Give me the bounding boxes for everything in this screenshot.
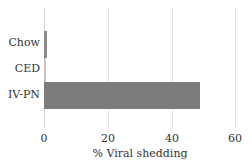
- gridline-20: [108, 8, 109, 128]
- gridline-60: [235, 8, 236, 128]
- bar-ced: [44, 58, 46, 82]
- bar-iv-pn: [44, 82, 200, 109]
- x-tick-40: 40: [165, 132, 179, 145]
- category-label-iv-pn: IV-PN: [8, 88, 40, 101]
- x-tick-60: 60: [228, 132, 242, 145]
- category-label-chow: Chow: [8, 36, 40, 49]
- plot-area: [44, 8, 235, 128]
- x-tick-0: 0: [41, 132, 48, 145]
- gridline-40: [172, 8, 173, 128]
- x-tick-20: 20: [101, 132, 115, 145]
- x-axis-label: % Viral shedding: [92, 147, 187, 160]
- category-label-ced: CED: [15, 62, 40, 75]
- bar-chow: [44, 31, 47, 58]
